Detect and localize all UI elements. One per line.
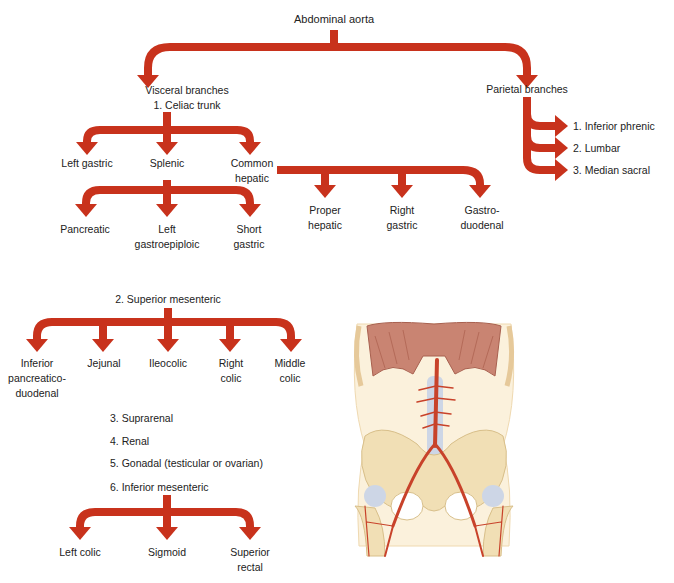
branch-short-gastric: Shortgastric [234, 222, 265, 252]
superior-mesenteric-label: 2. Superior mesenteric [115, 292, 221, 307]
parietal-median-sacral: 3. Median sacral [573, 163, 650, 178]
branch-middle-colic: Middlecolic [275, 356, 306, 386]
branch-right-gastric: Rightgastric [387, 203, 418, 233]
branch-left-colic: Left colic [59, 545, 100, 560]
parietal-inferior-phrenic: 1. Inferior phrenic [573, 119, 655, 134]
root-label: Abdominal aorta [294, 12, 374, 27]
anatomy-illustration [345, 316, 523, 568]
branch-common-hepatic: Commonhepatic [231, 156, 274, 186]
parietal-lumbar: 2. Lumbar [573, 141, 620, 156]
branch-pancreatic: Pancreatic [60, 222, 110, 237]
branch-inferior-pancreaticoduodenal: Inferiorpancreatico-duodenal [8, 356, 66, 401]
root-bar [148, 47, 527, 76]
branch-gastroduodenal: Gastro-duodenal [460, 203, 503, 233]
abdominal-aorta-branch-diagram: Abdominal aorta Visceral branches 1. Cel… [0, 0, 674, 583]
branch-ileocolic: Ileocolic [149, 356, 187, 371]
list-suprarenal: 3. Suprarenal [110, 411, 173, 426]
parietal-heading: Parietal branches [486, 82, 568, 97]
branch-jejunal: Jejunal [87, 356, 120, 371]
branch-sigmoid: Sigmoid [148, 545, 186, 560]
branch-left-gastric: Left gastric [61, 156, 112, 171]
branch-left-gastroepiploic: Leftgastroepiploic [135, 222, 200, 252]
branch-right-colic: Rightcolic [219, 356, 244, 386]
branch-superior-rectal: Superiorrectal [230, 545, 270, 575]
visceral-heading: Visceral branches [145, 83, 228, 98]
list-gonadal: 5. Gonadal (testicular or ovarian) [110, 456, 263, 471]
arrow-tree [0, 0, 674, 583]
list-inferior-mesenteric: 6. Inferior mesenteric [110, 480, 209, 495]
list-renal: 4. Renal [110, 434, 149, 449]
celiac-trunk-label: 1. Celiac trunk [153, 98, 220, 113]
branch-splenic: Splenic [150, 156, 184, 171]
branch-proper-hepatic: Properhepatic [308, 203, 342, 233]
